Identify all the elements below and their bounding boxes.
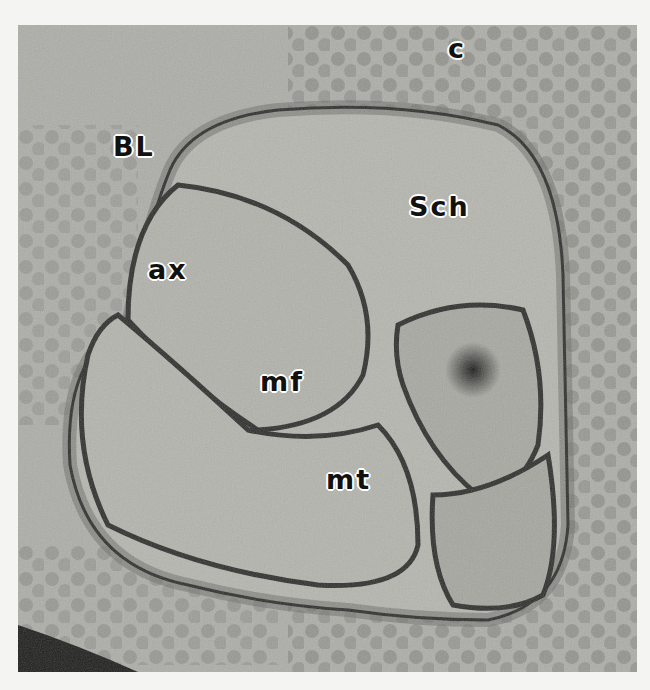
label-axon: ax xyxy=(148,256,188,283)
label-schwann-cell: Sch xyxy=(409,193,470,220)
label-microtubules: mt xyxy=(326,466,371,493)
label-basal-lamina: BL xyxy=(113,133,155,160)
label-collagen: c xyxy=(448,35,466,62)
electron-micrograph: c BL Sch ax mf mt xyxy=(18,25,637,672)
label-microfilaments: mf xyxy=(260,368,304,395)
micrograph-image xyxy=(18,25,637,672)
